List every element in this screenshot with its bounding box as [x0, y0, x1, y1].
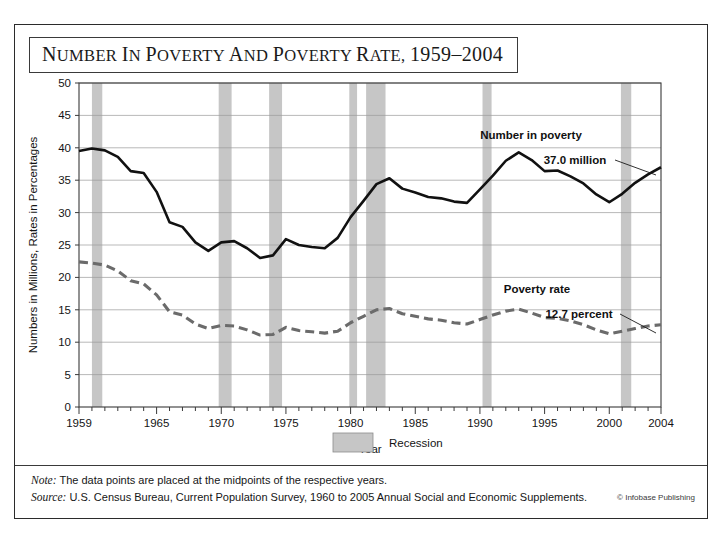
source-label: Source:: [31, 491, 66, 503]
legend-recession-label: Recession: [389, 437, 443, 449]
note-text: The data points are placed at the midpoi…: [59, 474, 387, 486]
figure-panel: NUMBER IN POVERTY AND POVERTY RATE, 1959…: [14, 24, 708, 519]
note-line: Note: The data points are placed at the …: [31, 474, 387, 486]
ytick-label-0: 0: [65, 401, 71, 413]
annotation-number-value: 37.0 million: [544, 154, 607, 166]
annotation-rate-series: Poverty rate: [504, 283, 570, 295]
xtick-label-1975: 1975: [273, 417, 299, 429]
xtick-label-1990: 1990: [467, 417, 493, 429]
note-label: Note:: [31, 474, 57, 486]
ytick-label-30: 30: [58, 207, 71, 219]
annotation-number-series: Number in poverty: [480, 129, 582, 141]
legend-recession-swatch: [333, 433, 373, 452]
xtick-label-1995: 1995: [532, 417, 558, 429]
xtick-label-1970: 1970: [208, 417, 234, 429]
figure-footer: Note: The data points are placed at the …: [15, 465, 707, 518]
xtick-label-2000: 2000: [596, 417, 622, 429]
ytick-label-20: 20: [58, 271, 71, 283]
ytick-label-5: 5: [65, 369, 71, 381]
xtick-label-2004: 2004: [648, 417, 674, 429]
xtick-label-1965: 1965: [144, 417, 170, 429]
ytick-label-10: 10: [58, 336, 71, 348]
poverty-line-chart: 0510152025303540455019591965197019751980…: [15, 25, 709, 465]
plot-area: 0510152025303540455019591965197019751980…: [15, 25, 709, 520]
source-text: U.S. Census Bureau, Current Population S…: [69, 491, 587, 503]
ytick-label-15: 15: [58, 304, 71, 316]
ytick-label-25: 25: [58, 239, 71, 251]
y-axis-title: Numbers in Millions, Rates in Percentage…: [27, 136, 39, 353]
ytick-label-50: 50: [58, 77, 71, 89]
copyright-credit: © Infobase Publishing: [617, 493, 695, 502]
xtick-label-1985: 1985: [402, 417, 428, 429]
annotation-rate-value: 12.7 percent: [545, 308, 612, 320]
ytick-label-40: 40: [58, 142, 71, 154]
source-line: Source: U.S. Census Bureau, Current Popu…: [31, 491, 587, 503]
ytick-label-35: 35: [58, 174, 71, 186]
ytick-label-45: 45: [58, 109, 71, 121]
xtick-label-1980: 1980: [338, 417, 364, 429]
xtick-label-1959: 1959: [66, 417, 92, 429]
